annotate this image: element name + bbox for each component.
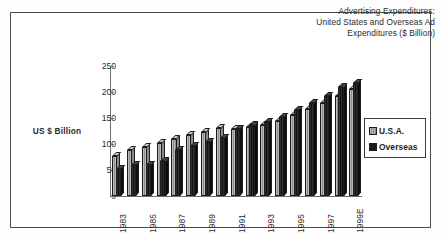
plot-area: 050100150200250	[110, 66, 362, 197]
bar-side	[210, 138, 213, 196]
chart-figure: Advertising Expenditures: United States …	[0, 0, 443, 240]
bar-top	[353, 79, 363, 83]
bar-side	[136, 161, 139, 196]
legend-swatch-usa-icon	[369, 127, 377, 135]
bar-group	[170, 66, 185, 196]
bar-face	[190, 146, 195, 196]
bar-overseas	[160, 161, 165, 196]
bar-group	[141, 66, 156, 196]
bar-overseas	[338, 87, 343, 196]
chart-title: Advertising Expenditures: United States …	[230, 6, 435, 39]
chart-legend: U.S.A. Overseas	[364, 118, 426, 158]
x-tick-label: 1999E	[355, 208, 365, 233]
bar-top	[127, 146, 137, 150]
bar-side	[344, 83, 347, 196]
bar-overseas	[294, 110, 299, 196]
bar-group	[348, 66, 363, 196]
chart-title-line-1: Advertising Expenditures:	[230, 6, 435, 17]
bar-group	[304, 66, 319, 196]
x-tick-label: 1991	[237, 214, 247, 233]
bar-side	[329, 92, 332, 196]
bar-face	[249, 125, 254, 196]
legend-item-usa: U.S.A.	[369, 124, 421, 137]
x-tick-label: 1983	[118, 214, 128, 233]
bar-top	[294, 106, 304, 110]
bar-side	[284, 113, 287, 196]
bar-overseas	[131, 165, 136, 196]
bar-series-container	[111, 66, 362, 196]
bar-overseas	[309, 103, 314, 196]
bar-top	[216, 124, 226, 128]
bar-side	[240, 126, 243, 196]
bar-face	[205, 142, 210, 196]
bar-top	[264, 118, 274, 122]
bar-overseas	[146, 165, 151, 196]
bar-overseas	[116, 169, 121, 196]
bar-top	[279, 113, 289, 117]
bar-face	[264, 122, 269, 196]
x-tick-label: 1995	[296, 214, 306, 233]
bar-overseas	[175, 150, 180, 196]
bar-group	[333, 66, 348, 196]
bar-group	[215, 66, 230, 196]
bar-side	[299, 106, 302, 196]
bar-overseas	[190, 146, 195, 196]
x-tick-label: 1993	[266, 214, 276, 233]
x-tick-label: 1985	[148, 214, 158, 233]
bar-group	[274, 66, 289, 196]
bar-side	[166, 157, 169, 196]
bar-overseas	[264, 122, 269, 196]
bar-face	[309, 103, 314, 196]
bar-overseas	[205, 142, 210, 196]
bar-face	[279, 117, 284, 196]
bar-top	[112, 152, 122, 156]
bar-overseas	[279, 117, 284, 196]
bar-face	[235, 129, 240, 196]
bar-side	[151, 161, 154, 196]
chart-title-line-2: United States and Overseas Ad	[230, 17, 435, 28]
bar-face	[294, 110, 299, 196]
bar-top	[201, 128, 211, 132]
bar-group	[259, 66, 274, 196]
bar-group	[155, 66, 170, 196]
legend-label-overseas: Overseas	[379, 142, 418, 152]
bar-overseas	[249, 125, 254, 196]
bar-top	[142, 143, 152, 147]
bar-group	[319, 66, 334, 196]
bar-top	[175, 146, 185, 150]
legend-label-usa: U.S.A.	[379, 126, 404, 136]
bar-side	[269, 118, 272, 196]
bar-group	[185, 66, 200, 196]
bar-group	[244, 66, 259, 196]
bar-top	[186, 131, 196, 135]
y-tick-mark	[110, 196, 114, 197]
bar-group	[200, 66, 215, 196]
bar-overseas	[324, 96, 329, 196]
bar-face	[131, 165, 136, 196]
bar-group	[126, 66, 141, 196]
bar-face	[175, 150, 180, 196]
bar-side	[121, 165, 124, 196]
x-tick-label: 1987	[177, 214, 187, 233]
bar-face	[338, 87, 343, 196]
x-tick-label: 1997	[326, 214, 336, 233]
bar-side	[314, 100, 317, 196]
bar-side	[180, 146, 183, 196]
bar-side	[358, 79, 361, 196]
bar-overseas	[220, 138, 225, 196]
x-tick-label: 1989	[207, 214, 217, 233]
bar-side	[225, 134, 228, 196]
y-axis-title: US $ Billion	[18, 126, 96, 136]
bar-group	[289, 66, 304, 196]
bar-face	[220, 138, 225, 196]
legend-swatch-overseas-icon	[369, 143, 377, 151]
bar-face	[146, 165, 151, 196]
bar-overseas	[235, 129, 240, 196]
bar-face	[160, 161, 165, 196]
legend-item-overseas: Overseas	[369, 140, 421, 153]
bar-side	[255, 121, 258, 196]
x-axis-ticks: 198319851987198919911993199519971999E	[110, 199, 362, 235]
bar-face	[324, 96, 329, 196]
bar-face	[353, 83, 358, 196]
bar-group	[230, 66, 245, 196]
